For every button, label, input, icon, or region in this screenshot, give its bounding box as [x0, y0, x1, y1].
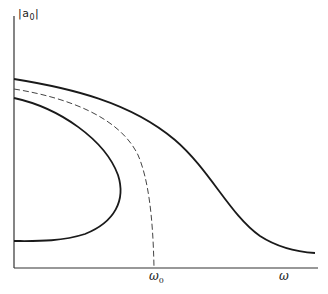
y-axis-label: |a0| — [18, 8, 39, 22]
inner-solid-curve — [14, 98, 121, 241]
x-axis-label: ω — [279, 270, 289, 282]
outer-solid-curve — [14, 79, 315, 253]
omega-zero-tick-label: ω0 — [149, 270, 164, 285]
response-curve-diagram — [0, 0, 328, 294]
